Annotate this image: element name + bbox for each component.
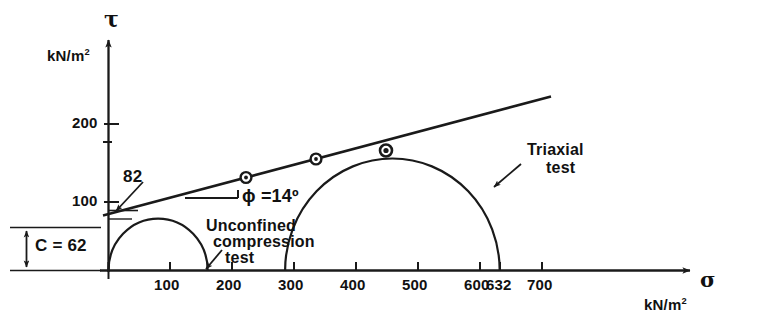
mohr-circle-plot: [0, 0, 758, 326]
y-axis-unit-exponent: 2: [84, 47, 89, 57]
failure-envelope-line: [103, 97, 551, 216]
unconfined-callout-arrow: [206, 250, 222, 269]
x-tick-label-200: 200: [216, 276, 242, 293]
triaxial-callout-arrow: [494, 164, 521, 187]
y-axis-symbol: τ: [104, 6, 119, 32]
x-tick-label-500: 500: [402, 276, 428, 293]
triaxial-test-label-line1: Triaxial: [527, 142, 584, 159]
x-tick-label-632: 632: [486, 276, 512, 293]
x-axis-unit-text: kN/m: [644, 296, 681, 313]
y-axis-unit-text: kN/m: [47, 47, 84, 64]
y-axis-unit: kN/m2: [47, 47, 90, 64]
figure-canvas: τ kN/m2 200 100 100 200 300 400 500 600 …: [0, 0, 758, 326]
y-tick-label-100: 100: [72, 192, 98, 209]
unconfined-test-label-line3: test: [225, 250, 254, 267]
x-tick-label-300: 300: [278, 276, 304, 293]
cohesion-label: C = 62: [35, 236, 87, 256]
data-point-3-dot: [383, 148, 388, 153]
friction-angle-label: ϕ =14º: [242, 186, 299, 207]
y-axis-ticks: [103, 124, 119, 202]
unconfined-compression-circle: [109, 219, 208, 271]
triaxial-test-circle: [285, 159, 500, 271]
x-axis-symbol: σ: [700, 267, 716, 292]
envelope-data-points: [241, 145, 392, 183]
data-point-1-dot: [244, 176, 248, 180]
intercept-value-label: 82: [123, 167, 142, 187]
x-axis-unit: kN/m2: [644, 296, 687, 313]
triaxial-test-label-line2: test: [546, 160, 575, 177]
data-point-2-dot: [314, 157, 318, 161]
x-tick-label-700: 700: [527, 276, 553, 293]
x-tick-label-100: 100: [154, 276, 180, 293]
y-tick-label-200: 200: [72, 114, 98, 131]
x-tick-label-400: 400: [340, 276, 366, 293]
x-axis-unit-exponent: 2: [681, 296, 686, 306]
